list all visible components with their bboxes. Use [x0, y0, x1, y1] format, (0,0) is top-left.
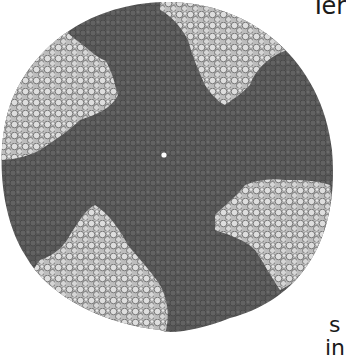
text-fragment-bottom-right-2: in [325, 337, 345, 359]
center-marker [161, 152, 166, 157]
text-fragment-top-right: Ter [311, 0, 346, 18]
text-fragment-bottom-right-1: s [329, 314, 340, 336]
